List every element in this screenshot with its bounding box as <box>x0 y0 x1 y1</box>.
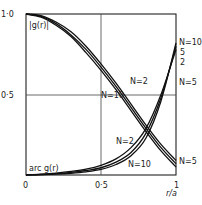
x-tick-0: 0 <box>23 181 28 190</box>
label-n10-lower: N=10 <box>128 160 151 169</box>
label-2-right: 2 <box>180 58 185 67</box>
y-tick-1: 1·0 <box>1 10 14 19</box>
x-tick-0.5: 0·5 <box>95 181 108 190</box>
label-n2-upper: N=2 <box>130 77 148 86</box>
chart: 1·0 0·5 0 0·5 1 r/a |g(r)| arc g(r) N=2 … <box>0 0 202 205</box>
x-axis-label: r/a <box>166 189 177 198</box>
magnitude-label: |g(r)| <box>29 21 49 30</box>
label-5-right: 5 <box>180 48 185 57</box>
label-n10-upper: N=10 <box>101 91 124 100</box>
y-tick-0.5: 0·5 <box>1 91 14 100</box>
label-n10-right-top: N=10 <box>179 38 202 47</box>
label-n2-lower: N=2 <box>116 137 134 146</box>
label-n5-right-mid: N=5 <box>179 78 197 87</box>
label-n5-right-bottom: N=5 <box>179 157 197 166</box>
argument-label: arc g(r) <box>29 164 59 173</box>
